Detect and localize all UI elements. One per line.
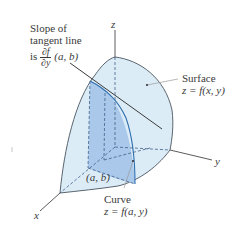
slope-line1: Slope of xyxy=(30,22,82,34)
x-axis xyxy=(40,193,60,211)
curve-title: Curve xyxy=(104,193,147,205)
curve-annotation: Curve z = f(a, y) xyxy=(104,193,147,217)
z-axis-label: z xyxy=(111,18,115,30)
point-label: (a, b) xyxy=(86,171,110,183)
surface-equation: z = f(x, y) xyxy=(182,84,225,96)
surface-annotation: Surface z = f(x, y) xyxy=(182,72,225,96)
slope-args: (a, b) xyxy=(54,50,78,62)
slope-prefix: is xyxy=(30,50,37,62)
y-axis-label: y xyxy=(215,155,220,167)
y-axis xyxy=(170,150,212,160)
partial-derivative: ∂f ∂y xyxy=(40,47,51,68)
slope-annotation: Slope of tangent line is ∂f ∂y (a, b) xyxy=(30,22,82,68)
surface-title: Surface xyxy=(182,72,225,84)
frac-denominator: ∂y xyxy=(40,58,51,68)
x-axis-label: x xyxy=(34,209,39,221)
curve-equation: z = f(a, y) xyxy=(104,205,147,217)
slope-line2: tangent line xyxy=(30,34,82,46)
